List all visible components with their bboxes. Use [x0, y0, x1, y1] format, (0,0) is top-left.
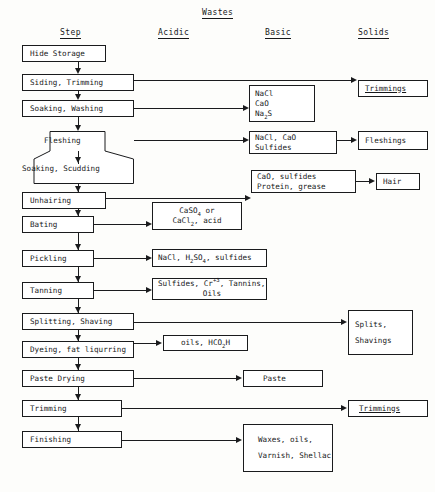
- connector-tanning-to-acidic: [94, 290, 146, 291]
- step-box-splitting-shaving[interactable]: Splitting, Shaving: [22, 313, 134, 330]
- arrow-down-finishing: [75, 424, 81, 430]
- waste-line-1: oils, HCO2H: [164, 338, 247, 348]
- arrow-right-acidic-dyeing: [156, 340, 162, 346]
- connector-basic-to-hair: [356, 181, 370, 182]
- solid-line-2: Shavings: [355, 336, 392, 346]
- waste-box-basic-fleshing[interactable]: NaCl, CaO Sulfides: [249, 131, 337, 154]
- waste-line-2: Varnish, Shellac: [249, 451, 331, 461]
- waste-line-1: NaCl, CaO: [255, 133, 296, 143]
- arrow-down-pickling: [75, 244, 81, 250]
- arrow-right-acidic-tanning: [146, 287, 152, 293]
- connector-soaking-to-basic: [134, 108, 246, 109]
- step-box-finishing[interactable]: Finishing: [22, 431, 122, 448]
- waste-line-2: CaCl2, acid: [153, 216, 241, 226]
- step-box-paste-drying[interactable]: Paste Drying: [22, 370, 134, 387]
- solid-label: Hair: [383, 177, 401, 187]
- arrow-down-soaking: [75, 94, 81, 100]
- arrow-down-tanning: [75, 276, 81, 282]
- solid-box-splits-shavings[interactable]: Splits, Shavings: [348, 310, 413, 355]
- waste-line-3: Na2S: [255, 109, 272, 119]
- step-box-bating[interactable]: Bating: [22, 216, 94, 233]
- waste-line-2: Sulfides: [255, 143, 292, 153]
- flowchart-canvas: Wastes Step Acidic Basic Solids Hide Sto…: [0, 0, 435, 492]
- step-label: Tanning: [30, 286, 62, 296]
- column-header-acidic: Acidic: [158, 28, 189, 39]
- solid-label: Trimmings: [355, 404, 400, 414]
- column-header-step: Step: [60, 28, 81, 39]
- arrow-down-scudding: [75, 157, 81, 163]
- arrow-right-basic-fleshing: [243, 137, 249, 143]
- waste-line-1: Sulfides, Cr+3, Tannins,: [158, 279, 265, 289]
- connector-siding-to-trimmings: [134, 80, 354, 81]
- arrow-down-splitting: [75, 307, 81, 313]
- step-label: Dyeing, fat liqurring: [30, 345, 126, 355]
- step-label: Trimming: [30, 404, 67, 414]
- header-wastes: Wastes: [202, 8, 233, 19]
- solid-label: Trimmings: [365, 84, 406, 94]
- arrow-right-trimmings-bottom: [341, 405, 347, 411]
- waste-box-basic-finishing[interactable]: Waxes, oils, Varnish, Shellac: [243, 424, 333, 472]
- arrow-down-siding: [75, 68, 81, 74]
- arrow-down-dyeing: [75, 335, 81, 341]
- waste-line-2: Oils: [158, 289, 266, 299]
- waste-box-acidic-tanning[interactable]: Sulfides, Cr+3, Tannins, Oils: [152, 278, 267, 300]
- waste-line-1: CaSO4 or: [153, 206, 241, 216]
- connector-fleshing-to-basic: [134, 140, 246, 141]
- waste-box-acidic-dyeing[interactable]: oils, HCO2H: [163, 335, 248, 351]
- step-label: Finishing: [30, 435, 71, 445]
- arrow-down-trimming: [75, 394, 81, 400]
- connector-paste-to-paste-waste: [134, 378, 237, 379]
- connector-splitting-to-splits: [134, 322, 342, 323]
- step-box-trimming[interactable]: Trimming: [22, 400, 122, 417]
- step-label-fleshing: Fleshing: [44, 136, 81, 146]
- step-label: Siding, Trimming: [30, 78, 103, 88]
- solid-box-trimmings-top[interactable]: Trimmings: [358, 80, 428, 97]
- waste-line-2: Protein, grease: [257, 182, 326, 192]
- arrow-right-acidic-bating: [146, 221, 152, 227]
- waste-box-acidic-pickling[interactable]: NaCl, H2SO4, sulfides: [152, 249, 267, 267]
- solid-box-fleshings[interactable]: Fleshings: [358, 131, 428, 150]
- solid-label: Fleshings: [365, 136, 406, 146]
- step-label: Paste Drying: [30, 374, 85, 384]
- arrow-down-bating: [75, 210, 81, 216]
- solid-box-trimmings-bottom[interactable]: Trimmings: [348, 400, 428, 417]
- step-label: Splitting, Shaving: [30, 317, 112, 327]
- waste-line-1: CaO, sulfides: [257, 172, 316, 182]
- step-box-hide-storage[interactable]: Hide Storage: [22, 45, 106, 62]
- step-box-soaking-washing[interactable]: Soaking, Washing: [22, 100, 134, 117]
- solid-line-1: Splits,: [355, 320, 387, 330]
- step-label: Pickling: [30, 254, 67, 264]
- arrow-right-hair: [369, 178, 375, 184]
- step-box-siding-trimming[interactable]: Siding, Trimming: [22, 74, 134, 91]
- step-box-dyeing-fat-liqurring[interactable]: Dyeing, fat liqurring: [22, 341, 134, 358]
- step-label-soaking-scudding: Soaking, Scudding: [22, 164, 100, 174]
- arrow-right-fleshings: [351, 137, 357, 143]
- waste-box-basic-unhairing[interactable]: CaO, sulfides Protein, grease: [251, 170, 356, 193]
- connector-finishing-to-waxes: [122, 440, 236, 441]
- step-label: Unhairing: [30, 196, 71, 206]
- arrow-right-waxes: [236, 437, 242, 443]
- step-box-tanning[interactable]: Tanning: [22, 282, 94, 299]
- waste-box-basic-soaking-washing[interactable]: NaCl CaO Na2S: [249, 85, 315, 122]
- arrow-right-splits-shavings: [341, 319, 347, 325]
- column-header-solids: Solids: [358, 28, 389, 39]
- waste-box-acidic-bating[interactable]: CaSO4 or CaCl2, acid: [152, 202, 242, 230]
- connector-pickling-to-acidic: [94, 258, 146, 259]
- arrow-down-paste-drying: [75, 364, 81, 370]
- arrow-down-fleshing: [75, 125, 81, 131]
- solid-box-hair[interactable]: Hair: [376, 173, 420, 190]
- waste-line-2: CaO: [255, 99, 269, 109]
- arrow-right-paste: [236, 375, 242, 381]
- step-box-pickling[interactable]: Pickling: [22, 250, 94, 267]
- step-box-unhairing[interactable]: Unhairing: [22, 192, 106, 209]
- arrow-right-acidic-pickling: [146, 255, 152, 261]
- step-label: Bating: [30, 220, 57, 230]
- connector-trimming-to-trimmings: [122, 408, 342, 409]
- arrow-right-trimmings-top: [351, 77, 357, 83]
- arrow-down-unhairing: [75, 186, 81, 192]
- column-header-basic: Basic: [265, 28, 291, 39]
- arrow-right-basic-soaking: [243, 105, 249, 111]
- step-label: Soaking, Washing: [30, 104, 103, 114]
- waste-box-basic-paste-drying[interactable]: Paste: [243, 370, 323, 387]
- waste-line-1: Paste: [249, 374, 286, 384]
